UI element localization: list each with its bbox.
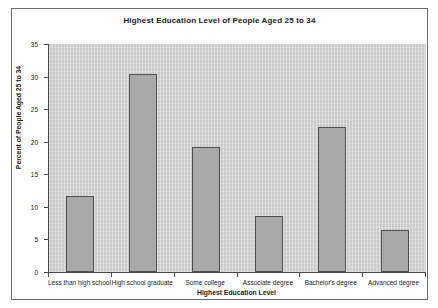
x-axis-tick-label: Advanced degree [362,279,425,286]
y-axis-tick-mark [44,207,48,208]
y-axis-tick-label: 10 [22,203,38,210]
y-axis-tick-mark [44,174,48,175]
x-axis-tick-label: Some college [174,279,237,286]
y-axis-tick-label: 15 [22,171,38,178]
x-axis-tick-mark [425,273,426,277]
bar [318,127,346,272]
y-axis-tick-mark [44,77,48,78]
x-axis-tick-mark [48,273,49,277]
y-axis-tick-mark [44,142,48,143]
y-axis-tick-label: 25 [22,106,38,113]
y-axis-tick-mark [44,109,48,110]
x-axis-tick-mark [237,273,238,277]
y-axis-tick-mark [44,239,48,240]
bar [381,230,409,272]
x-axis-tick-mark [362,273,363,277]
x-axis-label: Highest Education Level [48,289,425,296]
bar [255,216,283,272]
y-axis-tick-label: 35 [22,41,38,48]
y-axis-tick-label: 0 [22,269,38,276]
plot-texture [49,44,426,272]
chart-title: Highest Education Level of People Aged 2… [11,16,428,25]
y-axis-tick-label: 20 [22,138,38,145]
x-axis-tick-mark [299,273,300,277]
plot-area [48,44,426,273]
chart-figure: Highest Education Level of People Aged 2… [0,0,438,308]
y-axis-tick-label: 5 [22,236,38,243]
y-axis-tick-label: 30 [22,73,38,80]
bar [129,74,157,272]
y-axis-label: Percent of People Aged 25 to 34 [15,18,22,218]
x-axis-tick-label: Less than high school [48,279,111,286]
y-axis-tick-mark [44,44,48,45]
bar [66,196,94,272]
x-axis-tick-mark [111,273,112,277]
x-axis-tick-label: Bachelor's degree [299,279,362,286]
bar [192,147,220,272]
x-axis-tick-mark [174,273,175,277]
x-axis-tick-label: Associate degree [237,279,300,286]
x-axis-tick-label: High school graduate [111,279,174,286]
